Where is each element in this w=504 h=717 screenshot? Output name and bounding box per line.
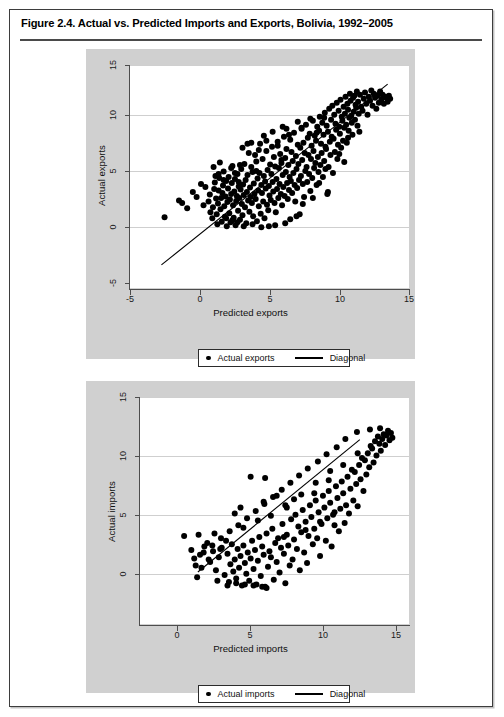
chart-exports: 15 10 5 0 -5 -5 0 5 10 15 Actual exports… [86, 49, 415, 369]
figure-frame: Figure 2.4. Actual vs. Predicted Imports… [9, 9, 493, 707]
ytick-5 [125, 171, 130, 172]
chart-exports-plot-area [130, 65, 409, 288]
xtick-label-10: 10 [329, 294, 351, 304]
chart-imports-y-axis [139, 397, 140, 626]
ytick-15 [135, 397, 140, 398]
legend-label-diagonal: Diagonal [330, 689, 366, 699]
xtick-label-0: 0 [166, 630, 188, 640]
title-divider [20, 39, 482, 41]
legend-dot-icon [206, 692, 211, 697]
ytick-15 [125, 65, 130, 66]
chart-imports-y-axis-title: Actual imports [106, 468, 117, 556]
xtick-label-15: 15 [398, 294, 420, 304]
ytick-label-5: 5 [118, 504, 128, 526]
legend-line-icon [295, 693, 323, 695]
chart-exports-y-axis [129, 65, 130, 290]
legend-label-actual: Actual exports [218, 353, 275, 363]
legend-dot-icon [206, 356, 211, 361]
chart-imports-scatter [140, 397, 409, 624]
ytick-label-0: 0 [118, 563, 128, 585]
xtick-label-5: 5 [259, 294, 281, 304]
ytick-label-15: 15 [118, 386, 128, 408]
figure-title: Figure 2.4. Actual vs. Predicted Imports… [21, 17, 393, 29]
legend-label-diagonal: Diagonal [330, 353, 366, 363]
legend-label-actual: Actual imports [218, 689, 275, 699]
ytick-0 [135, 574, 140, 575]
chart-exports-legend: Actual exports Diagonal [198, 349, 350, 367]
ytick-label-10: 10 [108, 104, 118, 126]
chart-exports-y-axis-title: Actual exports [96, 132, 107, 220]
ytick-10 [125, 115, 130, 116]
legend-line-icon [295, 357, 323, 359]
chart-exports-x-axis-title: Predicted exports [86, 307, 415, 318]
xtick-label-10: 10 [312, 630, 334, 640]
ytick-label-0: 0 [108, 216, 118, 238]
ytick-label-15: 15 [108, 54, 118, 76]
chart-imports-x-axis [139, 625, 410, 626]
ytick-label-10: 10 [118, 445, 128, 467]
chart-imports-legend: Actual imports Diagonal [198, 685, 350, 703]
xtick-label-minus5: -5 [119, 294, 141, 304]
ytick-label-5: 5 [108, 160, 118, 182]
chart-imports-plot-area [140, 397, 409, 624]
chart-imports-x-axis-title: Predicted imports [86, 643, 415, 654]
ytick-5 [135, 515, 140, 516]
chart-imports: 15 10 5 0 0 5 10 15 Actual imports Predi… [86, 381, 415, 701]
ytick-label-minus5: -5 [108, 272, 118, 294]
chart-exports-scatter [130, 65, 409, 288]
ytick-minus5 [125, 283, 130, 284]
xtick-label-15: 15 [385, 630, 407, 640]
xtick-label-5: 5 [239, 630, 261, 640]
ytick-0 [125, 227, 130, 228]
ytick-10 [135, 456, 140, 457]
xtick-label-0: 0 [189, 294, 211, 304]
